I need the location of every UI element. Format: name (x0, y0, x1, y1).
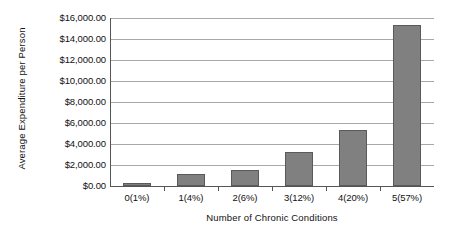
y-axis-tick-label: $14,000.00 (22, 33, 106, 44)
y-axis-tick-label: $10,000.00 (22, 75, 106, 86)
x-axis-tick-label: 4(20%) (338, 192, 368, 203)
bar-2 (231, 170, 259, 186)
bar-3 (285, 152, 313, 186)
x-axis-tick-label: 1(4%) (179, 192, 204, 203)
x-axis-tick (380, 186, 381, 191)
bar-4 (339, 130, 367, 186)
x-axis-tick-label: 5(57%) (392, 192, 422, 203)
bars-group (110, 18, 434, 186)
x-axis-title: Number of Chronic Conditions (110, 212, 434, 223)
x-axis-tick-labels: 0(1%)1(4%)2(6%)3(12%)4(20%)5(57%) (110, 192, 434, 208)
x-axis-tick (164, 186, 165, 191)
x-axis-tick (272, 186, 273, 191)
y-axis-line (110, 18, 111, 187)
y-axis-tick-label: $0.00 (22, 180, 106, 191)
y-axis-tick-label: $8,000.00 (22, 96, 106, 107)
y-axis-tick-label: $4,000.00 (22, 138, 106, 149)
bar-chart: Average Expenditure per Person $0.00$2,0… (0, 0, 450, 238)
y-axis-tick-labels: $0.00$2,000.00$4,000.00$6,000.00$8,000.0… (22, 0, 106, 238)
y-axis-tick-label: $12,000.00 (22, 54, 106, 65)
x-axis-ticks (110, 186, 434, 191)
x-axis-tick (326, 186, 327, 191)
x-axis-tick-label: 2(6%) (233, 192, 258, 203)
x-axis-tick (218, 186, 219, 191)
y-axis-tick-label: $2,000.00 (22, 159, 106, 170)
y-axis-tick-label: $16,000.00 (22, 12, 106, 23)
bar-5 (393, 25, 421, 186)
x-axis-tick-label: 0(1%) (125, 192, 150, 203)
x-axis-tick-label: 3(12%) (284, 192, 314, 203)
y-axis-tick-label: $6,000.00 (22, 117, 106, 128)
bar-1 (177, 174, 205, 186)
plot-area (110, 18, 434, 186)
